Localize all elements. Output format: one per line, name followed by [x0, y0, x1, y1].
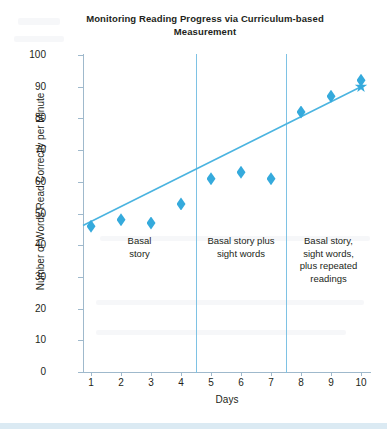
phase-divider-line — [286, 54, 287, 373]
y-tick-label: 80 — [0, 113, 46, 123]
y-tick-mark — [78, 118, 83, 119]
phase-label-line: Basal — [83, 235, 196, 248]
phase-label: Basalstory — [83, 235, 196, 260]
phase-label: Basal story plussight words — [196, 235, 286, 260]
x-tick-label: 3 — [139, 378, 163, 388]
x-tick-label: 5 — [199, 378, 223, 388]
phase-label-line: Basal story plus — [196, 235, 286, 248]
x-tick-label: 10 — [349, 378, 373, 388]
y-tick-mark — [78, 309, 83, 310]
phase-label-line: sight words, — [286, 248, 371, 261]
y-tick-mark — [78, 372, 83, 373]
data-point-marker — [237, 166, 246, 179]
phase-label-line: readings — [286, 273, 371, 286]
x-tick-label: 1 — [79, 378, 103, 388]
y-tick-label: 50 — [0, 209, 46, 219]
y-tick-label: 100 — [0, 50, 46, 60]
y-tick-label: 10 — [0, 335, 46, 345]
scan-artifact — [96, 330, 346, 335]
data-point-marker — [117, 213, 126, 226]
data-point-marker — [267, 172, 276, 185]
x-tick-label: 4 — [169, 378, 193, 388]
page-edge-band — [0, 423, 387, 429]
x-tick-mark — [181, 372, 182, 376]
trend-line — [0, 0, 387, 429]
x-tick-mark — [271, 372, 272, 376]
x-tick-label: 7 — [259, 378, 283, 388]
x-tick-label: 2 — [109, 378, 133, 388]
data-point-marker — [207, 172, 216, 185]
goal-star-marker — [355, 80, 368, 93]
phase-label-line: plus repeated — [286, 260, 371, 273]
phase-divider-line — [196, 54, 197, 373]
data-point-marker — [297, 106, 306, 119]
y-tick-mark — [78, 182, 83, 183]
y-axis-line — [83, 54, 84, 373]
x-tick-mark — [241, 372, 242, 376]
x-tick-mark — [361, 372, 362, 376]
data-point-marker — [147, 217, 156, 230]
scan-artifact — [18, 18, 60, 25]
x-tick-mark — [211, 372, 212, 376]
x-tick-mark — [151, 372, 152, 376]
x-axis-line — [83, 372, 371, 373]
phase-label-line: Basal story, — [286, 235, 371, 248]
y-tick-label: 30 — [0, 272, 46, 282]
scan-artifact — [96, 300, 364, 305]
y-tick-mark — [78, 214, 83, 215]
data-point-marker — [177, 197, 186, 210]
y-tick-mark — [78, 150, 83, 151]
x-tick-label: 8 — [289, 378, 313, 388]
x-tick-label: 6 — [229, 378, 253, 388]
y-tick-label: 90 — [0, 82, 46, 92]
y-tick-label: 20 — [0, 304, 46, 314]
reading-progress-chart: Monitoring Reading Progress via Curricul… — [0, 0, 387, 429]
y-tick-label: 70 — [0, 145, 46, 155]
x-tick-label: 9 — [319, 378, 343, 388]
y-tick-mark — [78, 55, 83, 56]
chart-title: Monitoring Reading Progress via Curricul… — [60, 12, 350, 38]
data-point-marker — [327, 90, 336, 103]
x-axis-label: Days — [83, 394, 371, 405]
data-point-marker — [87, 220, 96, 233]
y-tick-label: 0 — [0, 367, 46, 377]
x-tick-mark — [91, 372, 92, 376]
y-tick-mark — [78, 340, 83, 341]
y-tick-mark — [78, 87, 83, 88]
y-tick-label: 60 — [0, 177, 46, 187]
x-tick-mark — [331, 372, 332, 376]
x-tick-mark — [121, 372, 122, 376]
scan-artifact — [14, 36, 64, 42]
phase-label-line: sight words — [196, 248, 286, 261]
phase-label: Basal story,sight words,plus repeatedrea… — [286, 235, 371, 285]
y-tick-label: 40 — [0, 240, 46, 250]
x-tick-mark — [301, 372, 302, 376]
phase-label-line: story — [83, 248, 196, 261]
y-tick-mark — [78, 277, 83, 278]
